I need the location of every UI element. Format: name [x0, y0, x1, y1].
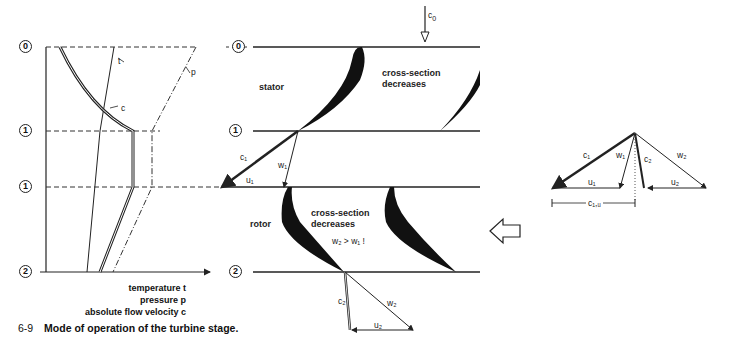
velocity-triangles — [552, 133, 706, 207]
stator-note: cross-sectiondecreases — [382, 68, 441, 90]
temperature-curve — [87, 47, 114, 272]
middle-diagram — [222, 6, 520, 330]
inlet-velocity-label: c0 — [428, 10, 436, 25]
station-marker: 1 — [229, 124, 242, 137]
station-marker: 1 — [19, 124, 32, 137]
axis-label-pressure: pressure p — [85, 294, 186, 306]
rotation-arrow-icon — [490, 219, 520, 243]
c2-label: c₂ — [338, 296, 346, 307]
stator-blade — [440, 70, 480, 131]
axis-label-temperature: temperature t — [85, 282, 186, 294]
rotor-blade — [385, 187, 456, 272]
w1-label: w₁ — [278, 160, 287, 171]
figure-caption: 6-9 Mode of operation of the turbine sta… — [18, 322, 238, 334]
pressure-curve — [113, 47, 196, 272]
w2-label: w₂ — [387, 298, 396, 309]
station-marker: 0 — [232, 40, 245, 53]
axis-legend: temperature t pressure p absolute flow v… — [85, 282, 186, 318]
velocity-label: c — [121, 103, 125, 114]
c2-label: c₂ — [644, 154, 652, 165]
c1u-label: c₁,ᵤ — [586, 198, 603, 209]
w1-label: w₁ — [616, 150, 625, 161]
left-chart — [40, 47, 222, 272]
u2-label: u₂ — [374, 320, 382, 331]
station-marker: 2 — [229, 265, 242, 278]
station-marker: 2 — [19, 265, 32, 278]
temperature-label: t — [118, 56, 120, 67]
stator-blade — [298, 47, 365, 131]
rotor-note: cross-sectiondecreases — [311, 208, 370, 230]
stator-label: stator — [259, 82, 284, 93]
axis-label-velocity: absolute flow velocity c — [85, 306, 186, 318]
station-marker: 0 — [19, 40, 32, 53]
pressure-label: p — [191, 67, 196, 78]
u1-label: u₁ — [246, 175, 254, 186]
station-marker: 1 — [19, 180, 32, 193]
u2-label: u₂ — [671, 177, 679, 188]
rotor-label: rotor — [250, 219, 271, 230]
c1-label: c₁ — [583, 150, 590, 161]
w2-label: w₂ — [677, 150, 686, 161]
u1-label: u₁ — [588, 177, 596, 188]
c1-label: c₁ — [240, 152, 247, 163]
velocity-curve — [60, 47, 133, 272]
figure-caption-text: Mode of operation of the turbine stage. — [44, 322, 238, 334]
rotor-condition: w₂ > w₁ ! — [332, 236, 365, 247]
figure-number: 6-9 — [18, 322, 33, 334]
